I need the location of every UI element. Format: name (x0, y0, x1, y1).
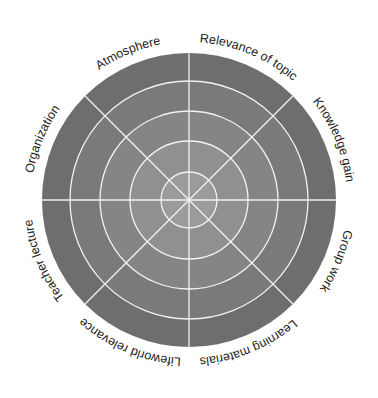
wheel-spokes (42, 53, 336, 347)
evaluation-wheel: Relevance of topicKnowledge gainGroup wo… (0, 0, 378, 398)
